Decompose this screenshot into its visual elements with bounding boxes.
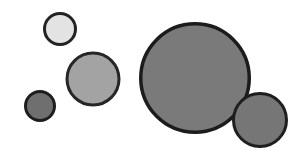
circles-canvas — [0, 0, 298, 150]
circles-plot — [0, 0, 298, 150]
right-small-circle — [234, 94, 287, 147]
small-light-circle — [45, 14, 76, 45]
medium-gray-circle — [67, 53, 119, 105]
small-dark-circle — [26, 92, 55, 121]
